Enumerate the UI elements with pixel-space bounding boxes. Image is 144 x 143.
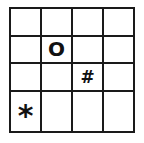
game-board: O # * [9, 7, 135, 133]
cell-r3-c1[interactable] [42, 92, 73, 133]
cell-r3-c3[interactable] [104, 92, 135, 133]
cell-r3-c2[interactable] [73, 92, 104, 133]
cell-r3-c0-star-piece[interactable]: * [11, 92, 42, 133]
cell-r2-c3[interactable] [104, 64, 135, 92]
cell-r1-c3[interactable] [104, 37, 135, 65]
cell-r0-c0[interactable] [11, 9, 42, 37]
cell-r0-c2[interactable] [73, 9, 104, 37]
cell-r1-c0[interactable] [11, 37, 42, 65]
cell-r1-c1-circle-piece[interactable]: O [42, 37, 73, 65]
cell-r0-c1[interactable] [42, 9, 73, 37]
cell-r2-c2-hash-piece[interactable]: # [73, 64, 104, 92]
cell-r0-c3[interactable] [104, 9, 135, 37]
cell-r2-c1[interactable] [42, 64, 73, 92]
cell-r2-c0[interactable] [11, 64, 42, 92]
cell-r1-c2[interactable] [73, 37, 104, 65]
